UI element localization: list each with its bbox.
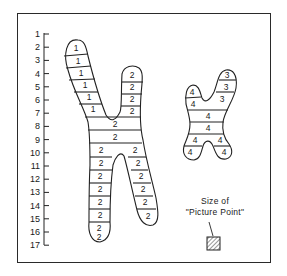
band-label: 1 [79,68,84,78]
band-label: 3 [220,94,225,104]
band-label: 1 [74,43,79,53]
scale-tick-label: 9 [35,135,40,145]
band-label: 2 [98,197,103,207]
band-label: 4 [190,87,195,97]
band-label: 2 [141,184,146,194]
band-label: 2 [130,70,135,80]
band-label: 2 [136,158,141,168]
band-label: 2 [133,145,138,155]
band-label: 3 [224,82,229,92]
scale-tick-label: 13 [30,187,40,197]
scale-tick-label: 3 [35,55,40,65]
band-label: 2 [146,211,151,221]
band-label: 1 [87,92,92,102]
band-label: 2 [98,171,103,181]
scale-tick-label: 10 [30,148,40,158]
band-label: 4 [218,135,223,145]
band-label: 2 [97,232,102,242]
band-label: 4 [206,111,211,121]
band-label: 4 [222,147,227,157]
band-label: 1 [91,104,96,114]
band-label: 4 [206,123,211,133]
band-label: 2 [99,145,104,155]
scale-tick-label: 5 [35,82,40,92]
legend-caption-line2: "Picture Point" [180,207,250,218]
band-label: 2 [113,132,118,142]
scale-tick-label: 11 [31,161,40,171]
scale-tick-label: 12 [30,174,40,184]
scale-tick-label: 7 [35,108,40,118]
row-scale: 1234567891011121314151617 [30,29,49,250]
band-label: 2 [113,119,118,129]
band-label: 2 [98,184,103,194]
band-label: 2 [143,197,148,207]
legend-caption-line1: Size of [180,196,250,207]
band-label: 2 [130,82,135,92]
band-label: 1 [83,80,88,90]
band-label: 4 [193,135,198,145]
scale-tick-label: 17 [30,240,40,250]
scale-tick-label: 4 [35,69,40,79]
scale-tick-label: 15 [30,214,40,224]
band-label: 2 [99,158,104,168]
band-label: 4 [188,147,193,157]
picture-point-swatch [207,222,220,250]
band-label: 1 [76,56,81,66]
scale-tick-label: 6 [35,95,40,105]
band-label: 2 [139,171,144,181]
scale-tick-label: 8 [35,121,40,131]
band-label: 2 [130,94,135,104]
band-label: 3 [225,70,230,80]
band-label: 4 [191,99,196,109]
scale-tick-label: 16 [30,227,40,237]
scale-tick-label: 14 [30,201,40,211]
band-label: 2 [130,106,135,116]
scale-tick-label: 2 [35,42,40,52]
band-label: 2 [98,210,103,220]
scale-tick-label: 1 [35,29,40,39]
chromosome-diagram: 1234567891011121314151617 11111122222222 [0,0,287,276]
